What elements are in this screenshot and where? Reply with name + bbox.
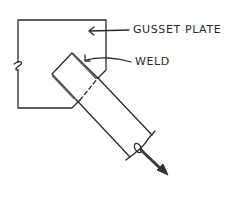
gusset-leader-line [90, 30, 129, 31]
break-symbol-icon [14, 62, 22, 70]
plate-edge-hidden-line [80, 78, 98, 100]
gusset-plate-label: GUSSET PLATE [133, 23, 221, 36]
force-arrow-icon [141, 150, 168, 175]
member-outline [52, 53, 152, 157]
weld-leader-line [86, 58, 131, 62]
weld-label: WELD [135, 55, 170, 68]
weld-bead-lower [53, 76, 74, 98]
